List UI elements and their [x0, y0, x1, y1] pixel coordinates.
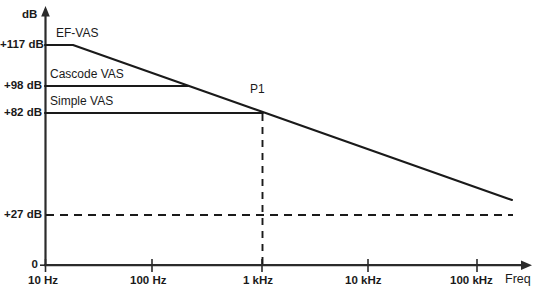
x-tick-label-10khz: 10 kHz	[345, 275, 381, 287]
series-label-cascode-vas: Cascode VAS	[50, 68, 124, 80]
y-tick-label-27db: +27 dB	[0, 209, 42, 221]
x-tick-label-10hz: 10 Hz	[28, 275, 58, 287]
x-tick-label-1khz: 1 kHz	[243, 275, 273, 287]
marker-label-p1: P1	[250, 83, 265, 95]
y-tick-label-98db: +98 dB	[0, 80, 42, 92]
x-axis	[44, 261, 532, 270]
y-tick-label-82db: +82 dB	[0, 107, 42, 119]
series-label-simple-vas: Simple VAS	[50, 95, 113, 107]
y-axis-unit-label: dB	[22, 9, 37, 21]
x-axis-unit-label: Freq	[505, 273, 531, 286]
x-tick-label-100hz: 100 Hz	[130, 275, 166, 287]
x-tick-label-100khz: 100 kHz	[450, 275, 493, 287]
chart-plot-area	[0, 0, 544, 292]
y-tick-label-117db: +117 dB	[0, 39, 42, 51]
y-tick-label-zero: 0	[0, 259, 38, 271]
open-loop-gain-chart: dB +117 dB +98 dB +82 dB +27 dB 0 10 Hz …	[0, 0, 544, 292]
series-label-ef-vas: EF-VAS	[56, 27, 98, 39]
